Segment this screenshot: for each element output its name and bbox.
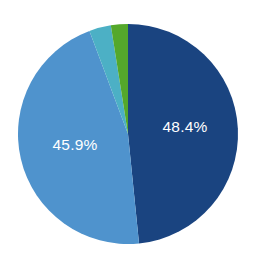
pie-chart-svg: 48.4%45.9% [0,0,255,271]
slice-light-blue-label: 45.9% [53,136,98,153]
slice-dark-blue-label: 48.4% [163,118,208,135]
pie-chart-figure: 48.4%45.9% [0,0,255,271]
